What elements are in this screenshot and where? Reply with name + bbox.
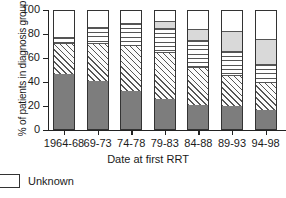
bar-segment [222,75,242,106]
y-axis-tick-label: 100 [22,3,40,15]
bar-segment [256,39,276,64]
y-axis-tick: 100 [43,10,48,11]
y-axis-tick: 80 [43,34,48,35]
bar-segment [155,10,175,21]
bar-segment [188,10,208,29]
x-axis-tick [198,130,199,135]
x-axis-title: Date at first RRT [48,153,248,166]
bar-segment [256,10,276,39]
x-axis-tick [131,130,132,135]
legend-label-unknown: Unknown [28,175,74,188]
y-axis-tick: 0 [43,130,48,131]
x-axis-tick [232,130,233,135]
bar-segment [188,29,208,40]
bar-79-83 [154,10,176,130]
y-axis-title: % of patients in diagnosis group [17,0,28,144]
stacked-bar-chart: % of patients in diagnosis group 0204060… [0,0,286,198]
x-axis-tick [98,130,99,135]
bar-segment [54,74,74,129]
bar-segment [222,31,242,51]
y-axis-tick-label: 80 [28,27,40,39]
bar-segment [256,82,276,110]
y-axis-tick: 60 [43,58,48,59]
x-axis-tick [64,130,65,135]
y-axis-tick: 40 [43,82,48,83]
bar-89-93 [221,10,243,130]
bar-segment [88,10,108,27]
bar-segment [256,64,276,82]
bar-segment [121,91,141,129]
y-axis-tick-label: 40 [28,75,40,87]
bar-segment [54,43,74,74]
x-axis-tick [266,130,267,135]
bar-segment [188,40,208,66]
bar-segment [222,106,242,129]
x-axis-tick [165,130,166,135]
y-axis-tick-label: 20 [28,99,40,111]
y-axis-line [48,10,49,130]
bar-segment [88,81,108,129]
legend-swatch-unknown [0,174,20,188]
bar-1964-68 [53,10,75,130]
x-axis-line [48,130,286,131]
bar-segment [121,23,141,45]
bar-segment [188,105,208,129]
bar-segment [88,43,108,81]
bar-segment [121,45,141,91]
y-axis-tick: 20 [43,106,48,107]
plot-area: 020406080100 1964-6869-7374-7879-8384-88… [48,4,286,136]
bar-94-98 [255,10,277,130]
bar-segment [155,99,175,129]
bar-segment [155,21,175,28]
bar-segment [222,51,242,75]
legend: Unknown [0,174,74,188]
bar-segment [222,10,242,31]
y-axis-tick-label: 60 [28,51,40,63]
bar-84-88 [187,10,209,130]
bar-segment [88,27,108,43]
bar-segment [54,10,74,37]
bar-segment [155,52,175,99]
x-axis-tick-label: 94-98 [242,137,286,149]
bar-segment [256,110,276,129]
bar-segment [155,28,175,52]
bar-69-73 [87,10,109,130]
bar-segment [54,37,74,43]
bar-segment [121,10,141,23]
bar-segment [188,67,208,105]
y-axis-tick-label: 0 [34,123,40,135]
bar-74-78 [120,10,142,130]
